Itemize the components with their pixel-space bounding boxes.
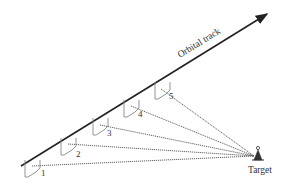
sight-line-3	[100, 125, 254, 156]
position-label-4: 4	[138, 109, 143, 119]
position-label-3: 3	[107, 128, 112, 138]
orbital-track-label: Orbital track	[176, 26, 223, 60]
sight-line-5	[161, 89, 254, 156]
orbital-track-line	[21, 14, 267, 166]
position-label-5: 5	[169, 91, 174, 101]
satellite-symbols	[25, 82, 170, 177]
target-antenna-icon	[252, 146, 264, 160]
sight-line-1	[32, 156, 254, 166]
orbital-geometry-diagram: Orbital track 1 2 3 4 5 Target	[0, 0, 292, 190]
position-label-1: 1	[41, 168, 46, 178]
sight-line-4	[131, 106, 254, 156]
position-label-2: 2	[76, 149, 81, 159]
target-label: Target	[248, 165, 272, 175]
